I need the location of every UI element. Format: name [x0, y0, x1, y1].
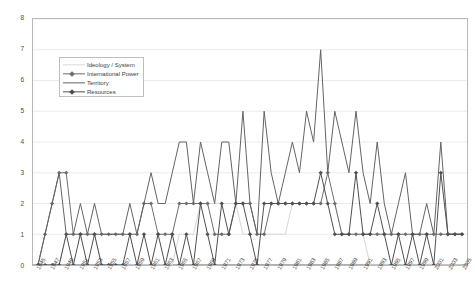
series-marker [241, 201, 245, 205]
series-marker [361, 232, 365, 236]
legend-item-label: International Power [85, 71, 139, 77]
series-line [38, 173, 462, 265]
y-tick-label: 4 [20, 139, 24, 146]
series-marker [64, 232, 68, 236]
y-tick-label: 3 [20, 170, 24, 177]
series-marker [269, 201, 273, 205]
y-axis: 012345678 [0, 18, 28, 266]
series-marker [403, 232, 407, 236]
series-marker [163, 232, 167, 236]
plot-area [32, 18, 468, 266]
series-marker [354, 232, 358, 236]
series-marker [220, 201, 224, 205]
series-marker [64, 171, 68, 175]
series-marker [439, 171, 443, 175]
series-marker [347, 232, 351, 236]
legend-swatch-icon [63, 87, 85, 96]
series-marker [220, 232, 224, 236]
series-marker [425, 232, 429, 236]
legend-item-label: Resources [85, 89, 116, 95]
series-marker [333, 201, 337, 205]
y-tick-label: 8 [20, 15, 24, 22]
series-marker [156, 232, 160, 236]
chart-legend: Ideology / SystemInternational PowerTerr… [59, 57, 144, 97]
series-marker [184, 201, 188, 205]
series-marker [227, 232, 231, 236]
series-marker [333, 232, 337, 236]
series-marker [311, 201, 315, 205]
series-marker [460, 232, 464, 236]
series-marker [234, 201, 238, 205]
series-marker [128, 232, 132, 236]
legend-item[interactable]: Resources [63, 87, 140, 96]
series-marker [354, 171, 358, 175]
series-marker [446, 232, 450, 236]
legend-swatch-icon [63, 69, 85, 78]
series-marker [262, 232, 266, 236]
series-marker [205, 201, 209, 205]
series-marker [368, 232, 372, 236]
legend-item-label: Ideology / System [85, 62, 135, 68]
series-marker [326, 201, 330, 205]
series-marker [184, 232, 188, 236]
series-marker [149, 201, 153, 205]
series-marker [290, 201, 294, 205]
series-marker [319, 171, 323, 175]
series-line [38, 173, 462, 265]
series-marker [382, 232, 386, 236]
y-tick-label: 6 [20, 77, 24, 84]
x-axis: 1945194719491951195319551957195919611963… [32, 266, 468, 299]
series-marker [142, 232, 146, 236]
y-tick-label: 7 [20, 46, 24, 53]
y-tick-label: 2 [20, 201, 24, 208]
series-marker [262, 201, 266, 205]
series-marker [205, 232, 209, 236]
y-tick-label: 0 [20, 263, 24, 270]
series-marker [396, 232, 400, 236]
y-tick-label: 5 [20, 108, 24, 115]
series-marker [410, 232, 414, 236]
legend-item[interactable]: Territory [63, 78, 140, 87]
legend-item[interactable]: Ideology / System [63, 60, 140, 69]
series-marker [78, 232, 82, 236]
series-marker [283, 201, 287, 205]
series-marker [304, 201, 308, 205]
series-marker [375, 232, 379, 236]
series-marker [92, 232, 96, 236]
series-marker [439, 232, 443, 236]
series-marker [453, 232, 457, 236]
series-marker [375, 201, 379, 205]
series-marker [248, 232, 252, 236]
legend-item[interactable]: International Power [63, 69, 140, 78]
series-marker [198, 201, 202, 205]
series-lines [33, 19, 467, 265]
series-marker [319, 201, 323, 205]
legend-swatch-icon [63, 60, 85, 69]
series-marker [177, 201, 181, 205]
legend-item-label: Territory [85, 80, 109, 86]
series-marker [340, 232, 344, 236]
legend-swatch-icon [63, 78, 85, 87]
series-marker [170, 232, 174, 236]
chart-root: 012345678 194519471949195119531955195719… [0, 0, 475, 299]
series-marker [276, 201, 280, 205]
y-tick-label: 1 [20, 232, 24, 239]
series-marker [297, 201, 301, 205]
series-marker [213, 232, 217, 236]
